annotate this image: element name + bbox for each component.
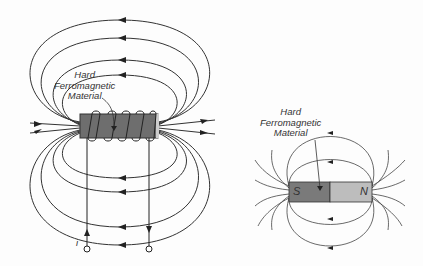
current-label: i xyxy=(76,238,78,249)
label-line: Hard xyxy=(260,107,321,118)
right-material-label: Hard Ferromagnetic Material xyxy=(260,107,321,139)
south-label: S xyxy=(293,186,300,197)
magnetic-field-diagrams xyxy=(0,0,423,266)
left-material-label: Hard Ferromagnetic Material xyxy=(54,70,115,102)
north-label: N xyxy=(360,186,368,197)
current-out-arrow xyxy=(146,226,152,233)
label-line: Hard xyxy=(54,70,115,81)
label-line: Material xyxy=(260,128,321,139)
terminal-left xyxy=(84,246,90,252)
current-in-arrow xyxy=(84,229,90,236)
label-line: Material xyxy=(54,91,115,102)
diagram-canvas: Hard Ferromagnetic Material i Hard Ferro… xyxy=(0,0,423,266)
terminal-right xyxy=(146,246,152,252)
